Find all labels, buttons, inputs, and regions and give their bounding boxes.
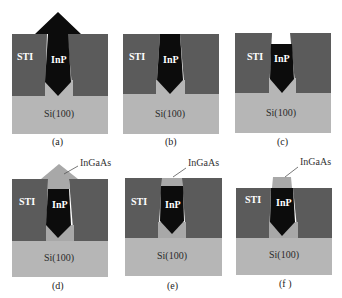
sti-left xyxy=(125,178,162,238)
panel-c: STI InP Si(100) (c) xyxy=(235,33,331,148)
panel-b: STI InP Si(100) (b) xyxy=(123,34,219,148)
sti-left xyxy=(123,34,160,94)
ingaas-label: InGaAs xyxy=(188,157,219,168)
sti-right xyxy=(290,33,331,93)
inp-label: InP xyxy=(274,53,290,64)
si-label: Si(100) xyxy=(269,249,299,261)
panel-caption: (c) xyxy=(277,136,288,148)
inp-label: InP xyxy=(51,54,67,65)
inp-label: InP xyxy=(52,199,68,210)
inp-label: InP xyxy=(163,54,179,65)
panel-caption: (b) xyxy=(165,136,177,148)
sti-label: STI xyxy=(19,196,35,207)
panel-a: STI InP Si(100) (a) xyxy=(12,12,108,148)
ingaas-leader-line xyxy=(285,167,298,177)
sti-label: STI xyxy=(247,51,263,62)
si-label: Si(100) xyxy=(266,107,296,119)
sti-label: STI xyxy=(245,194,261,205)
ingaas-leader-line xyxy=(173,168,186,177)
sti-label: STI xyxy=(129,51,145,62)
ingaas-fin xyxy=(272,177,292,188)
panel-caption: (a) xyxy=(52,136,63,148)
si-label: Si(100) xyxy=(44,108,74,120)
panel-d: InGaAs STI InP Si(100) (d) xyxy=(12,157,111,292)
si-label: Si(100) xyxy=(155,108,185,120)
ingaas-label: InGaAs xyxy=(80,157,111,168)
sti-right xyxy=(182,178,222,238)
sti-left xyxy=(12,179,48,241)
process-flow-diagram: STI InP Si(100) (a) STI InP Si(100) (b) … xyxy=(0,0,342,298)
sti-left xyxy=(12,34,47,96)
sti-left xyxy=(235,33,272,93)
ingaas-planar-cap xyxy=(162,178,182,186)
panel-caption: (e) xyxy=(167,280,178,292)
sti-right xyxy=(67,34,108,96)
panel-caption: (d) xyxy=(52,280,64,292)
panel-e: InGaAs STI InP Si(100) (e) xyxy=(125,157,222,292)
panel-caption: (f ) xyxy=(279,278,292,290)
ingaas-label: InGaAs xyxy=(300,156,331,167)
inp-label: InP xyxy=(276,197,292,208)
si-label: Si(100) xyxy=(157,250,187,262)
sti-label: STI xyxy=(17,51,33,62)
sti-right xyxy=(293,188,332,238)
panel-f: InGaAs STI InP Si(100) (f ) xyxy=(236,156,332,290)
sti-label: STI xyxy=(131,196,147,207)
inp-label: InP xyxy=(165,199,181,210)
sti-right xyxy=(69,179,108,241)
sti-right xyxy=(180,34,219,94)
si-label: Si(100) xyxy=(44,252,74,264)
